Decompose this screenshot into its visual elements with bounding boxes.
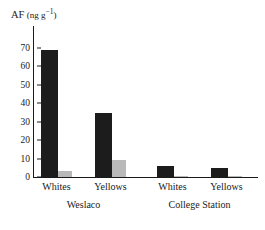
- bar-dark-0: [41, 50, 58, 177]
- y-tick-label: 50: [21, 80, 31, 90]
- x-category-label: Whites: [42, 180, 70, 193]
- bar-dark-1: [95, 113, 112, 178]
- x-category-label: Yellows: [94, 180, 126, 193]
- x-group-label: College Station: [169, 198, 231, 211]
- bar-light-1: [112, 160, 126, 178]
- y-tick-label: 20: [21, 135, 31, 145]
- bar-dark-2: [157, 166, 174, 177]
- bars-layer: [34, 26, 258, 177]
- x-axis-group-labels: WeslacoCollege Station: [0, 198, 265, 214]
- x-axis-category-labels: WhitesYellowsWhitesYellows: [0, 180, 265, 196]
- y-axis-title-unit-close: ): [53, 10, 56, 20]
- bar-light-0: [58, 171, 72, 177]
- y-tick-label: 30: [21, 117, 31, 127]
- bar-dark-3: [211, 168, 228, 177]
- y-tick-label: 60: [21, 61, 31, 71]
- bar-light-3: [228, 176, 242, 177]
- y-tick-label: 40: [21, 98, 31, 108]
- bar-light-2: [174, 176, 188, 177]
- bar-chart: AF (ng g−1) 010203040506070 WhitesYellow…: [0, 0, 265, 230]
- x-group-label: Weslaco: [67, 198, 101, 211]
- x-axis-line: [33, 177, 258, 178]
- y-tick-label: 70: [21, 43, 31, 53]
- x-category-label: Whites: [158, 180, 186, 193]
- x-category-label: Yellows: [210, 180, 242, 193]
- y-tick-label: 10: [21, 154, 31, 164]
